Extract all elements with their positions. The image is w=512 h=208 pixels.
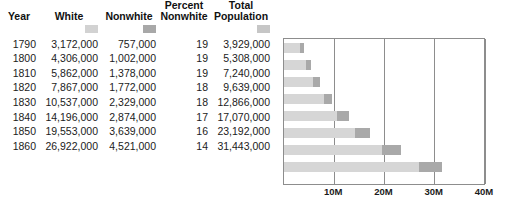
x-tick-label: 20M [374,186,392,197]
cell-year: 1790 [0,37,38,52]
table-row: 184014,196,0002,874,0001717,070,000 [0,110,272,125]
header-total-population: Population [210,11,272,22]
cell-white: 5,862,000 [38,66,100,81]
cell-year: 1800 [0,51,38,66]
chart-bar-segment-white [284,43,300,53]
cell-white: 4,306,000 [38,51,100,66]
chart-bar-segment-nonwhite [337,111,349,121]
cell-total-population: 23,192,000 [210,124,272,139]
x-tick-label: 30M [425,186,443,197]
chart-bar-segment-nonwhite [306,60,311,70]
header-nonwhite: Nonwhite [100,11,158,22]
header-year: Year [0,11,38,22]
chart-gridline [484,39,485,184]
cell-white: 7,867,000 [38,80,100,95]
cell-percent-nonwhite: 18 [158,95,210,110]
cell-percent-nonwhite: 14 [158,139,210,154]
legend-swatch-white-cell [38,22,100,37]
cell-percent-nonwhite: 19 [158,37,210,52]
legend-swatch-row [0,22,272,37]
chart-plot-area [283,38,485,185]
cell-white: 10,537,000 [38,95,100,110]
chart-bar-segment-white [284,77,313,87]
cell-percent-nonwhite: 16 [158,124,210,139]
cell-year: 1860 [0,139,38,154]
cell-nonwhite: 4,521,000 [100,139,158,154]
chart-bar-segment-white [284,111,337,121]
cell-nonwhite: 1,002,000 [100,51,158,66]
cell-white: 19,553,000 [38,124,100,139]
cell-total-population: 5,308,000 [210,51,272,66]
x-tick-label: 10M [324,186,342,197]
cell-percent-nonwhite: 17 [158,110,210,125]
cell-nonwhite: 3,639,000 [100,124,158,139]
chart-bar-segment-nonwhite [355,128,369,138]
cell-percent-nonwhite: 18 [158,80,210,95]
cell-nonwhite: 2,874,000 [100,110,158,125]
table-body: 17903,172,000757,000193,929,00018004,306… [0,37,272,154]
header-percent-nonwhite: Nonwhite [158,11,210,22]
cell-nonwhite: 757,000 [100,37,158,52]
cell-total-population: 3,929,000 [210,37,272,52]
cell-white: 14,196,000 [38,110,100,125]
stacked-bar-chart-panel: 10M20M30M40M © Cengage Learning [276,0,512,208]
table-row: 183010,537,0002,329,0001812,866,000 [0,95,272,110]
cell-year: 1820 [0,80,38,95]
header-white: White [38,11,100,22]
chart-bar-segment-nonwhite [324,94,333,104]
cell-nonwhite: 1,378,000 [100,66,158,81]
table-row: 18105,862,0001,378,000197,240,000 [0,66,272,81]
cell-white: 26,922,000 [38,139,100,154]
chart-bar-segment-nonwhite [300,43,304,53]
cell-total-population: 9,639,000 [210,80,272,95]
chart-bar-segment-white [284,60,306,70]
cell-year: 1850 [0,124,38,139]
legend-swatch-total-cell [210,22,272,37]
table-row: 18004,306,0001,002,000195,308,000 [0,51,272,66]
census-population-figure: Percent Total Year White Nonwhite Nonwhi… [0,0,512,208]
x-tick-label: 40M [475,186,493,197]
legend-swatch-white-icon [85,25,98,33]
cell-total-population: 12,866,000 [210,95,272,110]
cell-total-population: 17,070,000 [210,110,272,125]
chart-bar-segment-nonwhite [382,145,400,155]
table-row: 18207,867,0001,772,000189,639,000 [0,80,272,95]
table-row: 17903,172,000757,000193,929,000 [0,37,272,52]
census-data-table-panel: Percent Total Year White Nonwhite Nonwhi… [0,0,272,208]
chart-bar-segment-white [284,94,324,104]
chart-bar-segment-white [284,162,419,172]
chart-bar-segment-white [284,128,355,138]
legend-spacer-2 [158,22,210,37]
table-header: Percent Total Year White Nonwhite Nonwhi… [0,0,272,37]
cell-percent-nonwhite: 19 [158,51,210,66]
cell-percent-nonwhite: 19 [158,66,210,81]
cell-total-population: 31,443,000 [210,139,272,154]
census-data-table: Percent Total Year White Nonwhite Nonwhi… [0,0,272,153]
cell-white: 3,172,000 [38,37,100,52]
cell-year: 1840 [0,110,38,125]
legend-swatch-nonwhite-icon [143,25,156,33]
table-header-row-bottom: Year White Nonwhite Nonwhite Population [0,11,272,22]
cell-nonwhite: 2,329,000 [100,95,158,110]
chart-bar-segment-nonwhite [313,77,320,87]
chart-bar-segment-nonwhite [419,162,442,172]
cell-nonwhite: 1,772,000 [100,80,158,95]
table-row: 186026,922,0004,521,0001431,443,000 [0,139,272,154]
legend-swatch-nonwhite-cell [100,22,158,37]
legend-swatch-total-icon [257,25,270,33]
cell-year: 1830 [0,95,38,110]
chart-bar-segment-white [284,145,382,155]
cell-total-population: 7,240,000 [210,66,272,81]
legend-spacer [0,22,38,37]
cell-year: 1810 [0,66,38,81]
table-row: 185019,553,0003,639,0001623,192,000 [0,124,272,139]
